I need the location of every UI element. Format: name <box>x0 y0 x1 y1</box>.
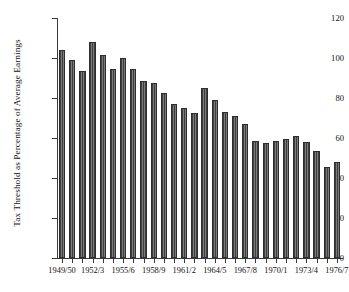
bar <box>273 141 279 258</box>
x-tick-mark <box>337 259 338 263</box>
x-tick-mark <box>317 259 318 263</box>
bar <box>59 50 65 258</box>
bar <box>313 151 319 258</box>
x-tick-mark <box>93 259 94 263</box>
x-tick-mark <box>113 259 114 263</box>
x-tick-mark <box>154 259 155 263</box>
x-tick-mark <box>133 259 134 263</box>
bar <box>191 113 197 258</box>
x-tick-mark <box>306 259 307 263</box>
bar <box>120 58 126 258</box>
y-axis-title: Tax Threshold as Percentage of Average E… <box>12 8 26 258</box>
x-tick-label: 1976/7 <box>325 266 348 275</box>
bar <box>252 141 258 258</box>
bar <box>171 104 177 258</box>
bar <box>212 100 218 258</box>
bar <box>140 81 146 258</box>
x-tick-label: 1952/3 <box>81 266 104 275</box>
bar <box>89 42 95 258</box>
bar <box>100 55 106 258</box>
x-tick-label: 1964/5 <box>203 266 226 275</box>
x-tick-label: 1955/6 <box>112 266 135 275</box>
x-tick-mark <box>82 259 83 263</box>
x-tick-mark <box>235 259 236 263</box>
bar <box>324 167 330 258</box>
bar <box>242 124 248 258</box>
x-tick-label: 1961/2 <box>173 266 196 275</box>
x-tick-label: 1958/9 <box>142 266 165 275</box>
bar <box>201 88 207 258</box>
bar <box>181 108 187 258</box>
x-tick-mark <box>225 259 226 263</box>
bar <box>79 71 85 258</box>
bar <box>110 69 116 258</box>
x-tick-mark <box>62 259 63 263</box>
x-tick-mark <box>194 259 195 263</box>
x-tick-mark <box>103 259 104 263</box>
bar <box>151 83 157 258</box>
x-tick-mark <box>184 259 185 263</box>
x-tick-mark <box>266 259 267 263</box>
x-tick-mark <box>174 259 175 263</box>
x-tick-label: 1973/4 <box>295 266 318 275</box>
x-tick-mark <box>286 259 287 263</box>
bar <box>293 136 299 258</box>
x-tick-mark <box>245 259 246 263</box>
x-tick-label: 1967/8 <box>234 266 257 275</box>
x-tick-mark <box>276 259 277 263</box>
x-tick-mark <box>144 259 145 263</box>
x-tick-label: 1970/1 <box>264 266 287 275</box>
x-tick-mark <box>296 259 297 263</box>
plot-area <box>57 18 342 258</box>
x-tick-mark <box>123 259 124 263</box>
bar <box>232 116 238 258</box>
x-tick-mark <box>72 259 73 263</box>
y-tick-mark <box>52 258 57 259</box>
bar <box>69 60 75 258</box>
bar <box>130 69 136 258</box>
bar <box>263 143 269 258</box>
bar <box>222 112 228 258</box>
bar <box>303 142 309 258</box>
bar <box>334 162 340 258</box>
x-tick-mark <box>205 259 206 263</box>
x-tick-mark <box>215 259 216 263</box>
bar <box>283 139 289 258</box>
x-tick-mark <box>327 259 328 263</box>
x-tick-label: 1949/50 <box>48 266 75 275</box>
x-tick-mark <box>255 259 256 263</box>
bar <box>161 93 167 258</box>
x-tick-mark <box>164 259 165 263</box>
